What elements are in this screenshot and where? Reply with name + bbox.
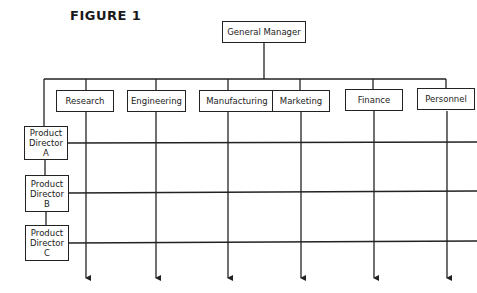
product-director-box-c: Product Director C: [25, 225, 69, 261]
department-label: Research: [66, 96, 105, 106]
pd-line1: Product: [31, 228, 63, 238]
pd-line2: Director: [30, 238, 64, 248]
pd-line2: Director: [30, 189, 64, 199]
pd-line2: Director: [29, 138, 63, 148]
pd-line3: C: [44, 248, 50, 258]
product-director-box-a: Product Director A: [24, 126, 68, 160]
connector-lines: [0, 0, 477, 293]
department-box-finance: Finance: [345, 89, 403, 111]
department-label: Manufacturing: [206, 96, 268, 106]
product-director-box-b: Product Director B: [25, 175, 69, 212]
general-manager-label: General Manager: [227, 27, 300, 37]
department-label: Finance: [358, 95, 391, 105]
pd-line1: Product: [31, 179, 63, 189]
pd-line3: A: [43, 148, 49, 158]
department-label: Personnel: [425, 94, 467, 104]
department-box-marketing: Marketing: [272, 90, 330, 112]
department-box-research: Research: [56, 90, 114, 112]
general-manager-box: General Manager: [222, 21, 306, 43]
department-box-manufacturing: Manufacturing: [199, 90, 275, 112]
department-label: Marketing: [280, 96, 322, 106]
pd-line1: Product: [30, 128, 62, 138]
department-box-engineering: Engineering: [127, 90, 186, 112]
pd-line3: B: [44, 199, 50, 209]
department-box-personnel: Personnel: [417, 88, 475, 110]
department-label: Engineering: [131, 96, 182, 106]
